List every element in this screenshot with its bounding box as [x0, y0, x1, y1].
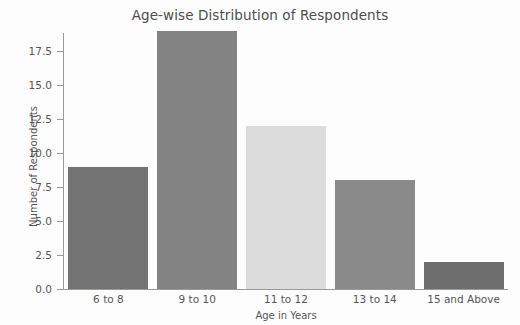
bar: [157, 31, 237, 289]
x-axis-title: Age in Years: [64, 310, 508, 321]
y-axis-tick-label: 0.0: [12, 283, 52, 295]
x-axis-spine: [63, 289, 508, 290]
x-axis-tick-label: 13 to 14: [330, 293, 419, 305]
bar: [68, 167, 148, 289]
y-axis-tick-label: 17.5: [12, 45, 52, 57]
x-axis-tick-label: 15 and Above: [419, 293, 508, 305]
bar: [246, 126, 326, 289]
x-axis-tick-label: 6 to 8: [64, 293, 153, 305]
y-axis-tick: [57, 85, 64, 86]
y-axis-tick: [57, 187, 64, 188]
chart-title: Age-wise Distribution of Respondents: [0, 7, 520, 23]
bar: [424, 262, 504, 289]
y-axis-tick: [57, 153, 64, 154]
y-axis-tick: [57, 221, 64, 222]
y-axis-tick: [57, 255, 64, 256]
y-axis-title: Number of Respondents: [28, 72, 39, 262]
bar-chart-figure: Age-wise Distribution of Respondents 0.0…: [0, 0, 520, 325]
plot-area: [64, 33, 508, 289]
x-axis-tick-label: 9 to 10: [153, 293, 242, 305]
bar: [335, 180, 415, 289]
y-axis-tick: [57, 289, 64, 290]
x-axis-tick-label: 11 to 12: [242, 293, 331, 305]
y-axis-tick: [57, 51, 64, 52]
y-axis-tick: [57, 119, 64, 120]
